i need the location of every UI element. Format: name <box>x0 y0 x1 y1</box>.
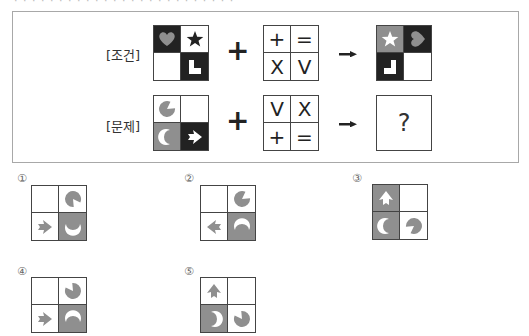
condition-result-cell <box>404 26 431 53</box>
star-icon <box>380 29 400 49</box>
heart-icon <box>157 29 177 49</box>
option-3-cell <box>400 185 427 212</box>
option-1-cell <box>59 213 86 240</box>
pacman-icon <box>232 189 252 209</box>
rule-cell: X <box>264 53 291 80</box>
pacman-icon <box>404 216 424 236</box>
option-5-grid[interactable] <box>200 277 256 333</box>
option-1-grid[interactable] <box>31 185 87 241</box>
right-arrow-icon <box>339 121 357 127</box>
option-5-cell <box>228 278 255 305</box>
pacman-icon <box>63 189 83 209</box>
answer-placeholder-box: ? <box>376 95 432 151</box>
rule-symbol: + <box>269 29 286 49</box>
problem-label: [문제] <box>106 116 140 135</box>
right-arrow-icon <box>339 51 357 57</box>
plus-operator: + <box>226 104 249 137</box>
option-4-grid[interactable] <box>31 277 87 333</box>
option-2-number: ② <box>184 172 194 185</box>
pacman-icon <box>232 309 252 329</box>
rule-cell: X <box>291 96 318 123</box>
problem-input-cell <box>181 123 208 150</box>
arrow-icon <box>185 127 205 147</box>
crescent-icon <box>157 127 177 147</box>
condition-input-cell <box>154 53 181 80</box>
rule-symbol: + <box>269 127 286 147</box>
rule-cell: V <box>264 96 291 123</box>
option-4-number: ④ <box>17 265 27 278</box>
option-1-cell <box>32 213 59 240</box>
rule-cell: + <box>264 26 291 53</box>
option-5-number: ⑤ <box>184 265 194 278</box>
condition-label: [조건] <box>106 45 140 64</box>
rule-symbol: = <box>296 127 313 147</box>
arrow-icon <box>35 217 55 237</box>
problem-input-cell <box>181 96 208 123</box>
option-5-cell <box>201 305 228 332</box>
crescent-icon <box>63 217 83 237</box>
option-4-cell <box>32 278 59 305</box>
crescent-icon <box>63 309 83 329</box>
option-4-cell <box>59 305 86 332</box>
option-1-cell <box>59 186 86 213</box>
option-2-cell <box>228 213 255 240</box>
crescent-icon <box>232 217 252 237</box>
condition-result-cell <box>377 26 404 53</box>
crescent-icon <box>204 309 224 329</box>
rule-symbol: = <box>296 29 313 49</box>
pacman-icon <box>63 281 83 301</box>
question-mark: ? <box>398 109 411 137</box>
crescent-icon <box>376 216 396 236</box>
rule-cell: = <box>291 123 318 150</box>
star-icon <box>185 29 205 49</box>
arrow-icon <box>204 281 224 301</box>
option-3-cell <box>373 212 400 239</box>
option-4-cell <box>59 278 86 305</box>
option-5-cell <box>228 305 255 332</box>
rule-cell: V <box>291 53 318 80</box>
rule-symbol: V <box>270 99 284 119</box>
condition-result-grid <box>376 25 432 81</box>
problem-input-cell <box>154 96 181 123</box>
heart-icon <box>408 29 428 49</box>
problem-input-grid <box>153 95 209 151</box>
option-2-cell <box>228 186 255 213</box>
rule-cell: = <box>291 26 318 53</box>
condition-result-cell <box>377 53 404 80</box>
arrow-icon <box>35 309 55 329</box>
option-2-grid[interactable] <box>200 185 256 241</box>
rule-cell: + <box>264 123 291 150</box>
option-3-number: ③ <box>352 172 362 185</box>
option-1-number: ① <box>17 172 27 185</box>
option-4-cell <box>32 305 59 332</box>
rule-symbol: X <box>270 57 284 77</box>
condition-input-cell <box>154 26 181 53</box>
condition-input-cell <box>181 26 208 53</box>
condition-rule-grid: +=XV <box>263 25 319 81</box>
arrow-icon <box>376 188 396 208</box>
pacman-icon <box>157 99 177 119</box>
option-1-cell <box>32 186 59 213</box>
arrow-icon <box>204 217 224 237</box>
option-3-cell <box>373 185 400 212</box>
cut-off-question-text: · · · · · · · · · · · · · · · · · · · · … <box>14 0 519 4</box>
rule-symbol: V <box>298 57 312 77</box>
L-icon <box>185 57 205 77</box>
condition-input-cell <box>181 53 208 80</box>
option-3-cell <box>400 212 427 239</box>
option-2-cell <box>201 213 228 240</box>
condition-input-grid <box>153 25 209 81</box>
rule-symbol: X <box>298 99 312 119</box>
option-2-cell <box>201 186 228 213</box>
problem-rule-grid: VX+= <box>263 95 319 151</box>
L-icon <box>380 57 400 77</box>
problem-input-cell <box>154 123 181 150</box>
condition-result-cell <box>404 53 431 80</box>
plus-operator: + <box>226 34 249 67</box>
option-3-grid[interactable] <box>372 184 428 240</box>
option-5-cell <box>201 278 228 305</box>
